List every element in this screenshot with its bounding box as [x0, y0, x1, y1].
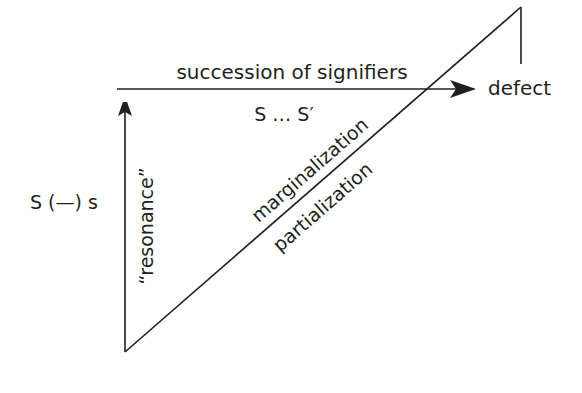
succession-label: succession of signifiers: [176, 60, 407, 84]
diagram-canvas: succession of signifiers S … S′ defect S…: [0, 0, 582, 393]
resonance-label: “resonance”: [135, 167, 157, 284]
chain-label: S … S′: [254, 103, 314, 125]
diagonal-line: [125, 7, 521, 352]
formula-label: S (—) s: [30, 191, 98, 213]
defect-label: defect: [488, 76, 551, 100]
